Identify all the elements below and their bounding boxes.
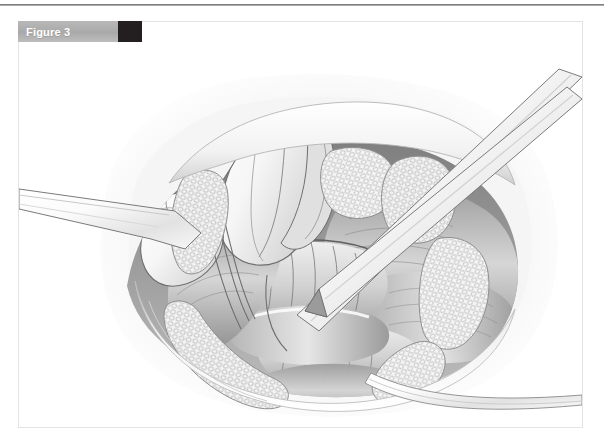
figure-label-band: Figure 3 <box>18 21 118 42</box>
illustration-container <box>19 43 582 427</box>
figure-label: Figure 3 <box>18 26 70 38</box>
surgical-anatomy-illustration <box>19 43 582 427</box>
figure-color-swatch <box>118 21 142 42</box>
top-rule <box>0 4 604 6</box>
figure-page: Figure 3 <box>0 0 604 441</box>
